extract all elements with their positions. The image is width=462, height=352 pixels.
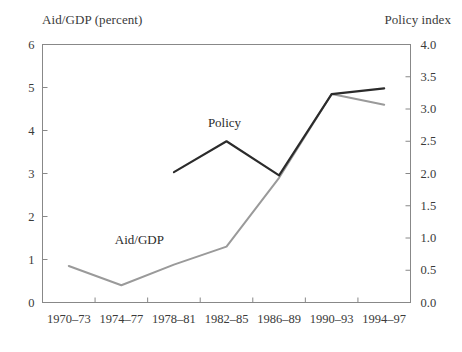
right-axis-tick-label: 4.0: [421, 37, 455, 52]
series-annotation-aid-gdp: Aid/GDP: [115, 232, 164, 248]
left-axis-tick-label: 6: [7, 37, 35, 52]
right-axis-tick-label: 3.0: [421, 102, 455, 117]
x-axis-category-label: 1970–73: [47, 312, 91, 327]
left-axis-tick-label: 5: [7, 80, 35, 95]
left-axis-tick-label: 4: [7, 123, 35, 138]
series-annotation-policy: Policy: [208, 115, 241, 131]
right-axis-tick-label: 1.5: [421, 198, 455, 213]
left-axis-tick-label: 2: [7, 209, 35, 224]
x-axis-category-label: 1982–85: [205, 312, 249, 327]
plot-frame: [43, 45, 411, 303]
x-axis-category-label: 1974–77: [99, 312, 143, 327]
right-axis-ticks: [406, 77, 411, 271]
x-axis-category-label: 1990–93: [310, 312, 354, 327]
right-axis-tick-label: 0.0: [421, 295, 455, 310]
right-axis-tick-label: 2.5: [421, 134, 455, 149]
right-axis-tick-label: 1.0: [421, 231, 455, 246]
plot-area: [0, 0, 462, 352]
right-axis-tick-label: 3.5: [421, 69, 455, 84]
left-axis-tick-label: 1: [7, 252, 35, 267]
x-axis-ticks: [95, 298, 358, 303]
x-axis-category-label: 1994–97: [362, 312, 406, 327]
left-axis-tick-label: 0: [7, 295, 35, 310]
left-axis-ticks: [43, 88, 48, 260]
right-axis-tick-label: 0.5: [421, 263, 455, 278]
x-axis-category-label: 1986–89: [257, 312, 301, 327]
x-axis-category-label: 1978–81: [152, 312, 196, 327]
chart-container: Aid/GDP (percent) Policy index 0123456 0…: [0, 0, 462, 352]
left-axis-tick-label: 3: [7, 166, 35, 181]
right-axis-tick-label: 2.0: [421, 166, 455, 181]
